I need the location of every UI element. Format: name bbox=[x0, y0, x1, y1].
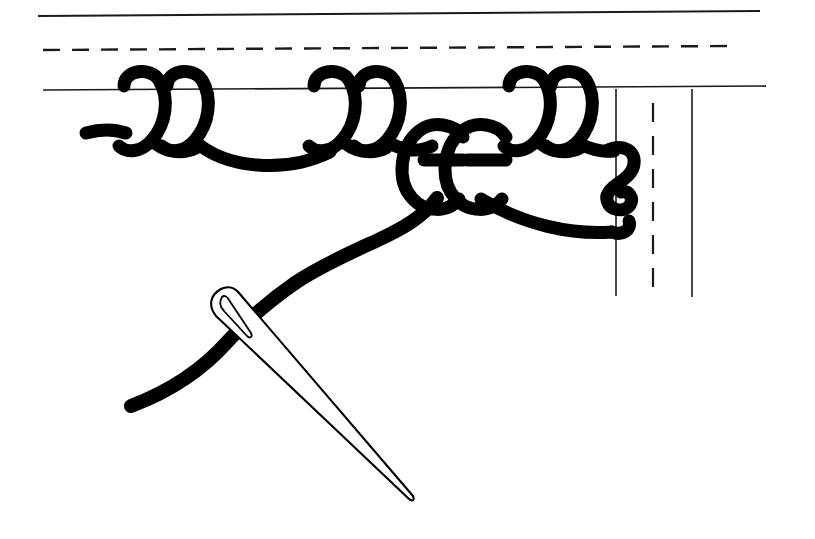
diagram-canvas: Blanket stitch worked along a fabric edg… bbox=[0, 0, 815, 539]
thread-tail bbox=[86, 130, 126, 133]
stitch-diagram-figure: Blanket stitch worked along a fabric edg… bbox=[0, 0, 815, 539]
